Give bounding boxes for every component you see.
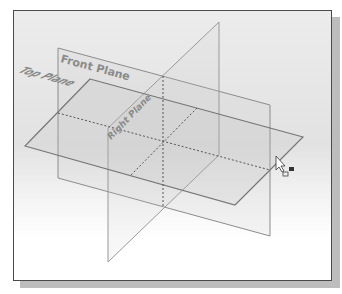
select-plane-cursor-icon [276, 156, 294, 176]
datum-planes-scene: Front Plane Top Plane Right Plane [0, 0, 342, 294]
